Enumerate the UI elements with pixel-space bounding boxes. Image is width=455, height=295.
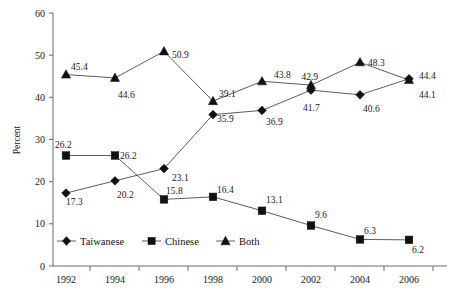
- data-point-chinese-2000: [258, 207, 266, 215]
- data-point-both-1996: [159, 46, 168, 54]
- data-point-both-2000: [257, 76, 266, 84]
- legend-label-both: Both: [239, 236, 260, 247]
- value-label-chinese-1996: 15.8: [166, 186, 183, 196]
- data-point-taiwanese-1994: [111, 176, 120, 185]
- y-axis-ticks: [49, 13, 53, 266]
- value-label-both-1996: 50.9: [172, 50, 189, 60]
- x-tick-label-2006: 2006: [399, 274, 419, 285]
- y-tick-label-10: 10: [35, 218, 45, 229]
- x-axis-ticks: [90, 266, 433, 271]
- value-label-taiwanese-2004: 40.6: [363, 104, 380, 114]
- value-label-chinese-1992: 26.2: [55, 140, 72, 150]
- data-point-chinese-2004: [356, 236, 364, 244]
- series-markers-chinese: [62, 152, 413, 244]
- triangle-marker-icon: [221, 236, 230, 245]
- x-tick-label-1998: 1998: [203, 274, 223, 285]
- diamond-marker-icon: [62, 237, 70, 246]
- x-tick-label-2000: 2000: [252, 274, 272, 285]
- data-point-chinese-1996: [160, 196, 168, 204]
- value-label-chinese-2004: 6.3: [364, 226, 376, 236]
- legend-label-chinese: Chinese: [165, 236, 199, 247]
- y-tick-label-60: 60: [35, 8, 45, 19]
- value-label-both-1994: 44.6: [118, 90, 135, 100]
- data-point-chinese-2006: [405, 236, 413, 244]
- value-label-both-1992: 45.4: [71, 62, 88, 72]
- x-tick-label-2004: 2004: [350, 274, 370, 285]
- square-marker-icon: [148, 237, 155, 244]
- data-point-both-1992: [61, 70, 70, 78]
- value-label-chinese-1998: 16.4: [217, 185, 234, 195]
- value-label-chinese-2000: 13.1: [266, 195, 283, 205]
- value-label-chinese-1994: 26.2: [120, 151, 137, 161]
- data-point-chinese-1992: [62, 152, 70, 160]
- legend-item-chinese[interactable]: Chinese: [142, 236, 199, 247]
- x-tick-label-1996: 1996: [154, 274, 174, 285]
- y-tick-label-40: 40: [35, 92, 45, 103]
- value-label-taiwanese-2000: 36.9: [266, 117, 283, 127]
- value-label-chinese-2006: 6.2: [412, 245, 424, 255]
- y-tick-label-0: 0: [40, 261, 45, 272]
- value-label-both-2000: 43.8: [274, 70, 291, 80]
- legend-label-taiwanese: Taiwanese: [80, 236, 124, 247]
- data-point-chinese-1998: [209, 193, 217, 201]
- value-label-both-2002: 42.9: [301, 72, 318, 82]
- series-markers-taiwanese: [62, 74, 414, 197]
- value-label-chinese-2002: 9.6: [315, 210, 327, 220]
- value-label-both-2006: 44.1: [419, 90, 436, 100]
- data-point-taiwanese-2000: [258, 106, 267, 115]
- value-label-both-2004: 48.3: [368, 58, 385, 68]
- x-tick-label-2002: 2002: [301, 274, 321, 285]
- value-label-taiwanese-2002: 41.7: [303, 103, 320, 113]
- value-label-taiwanese-1994: 20.2: [117, 190, 134, 200]
- value-label-taiwanese-1996: 23.1: [172, 173, 189, 183]
- x-tick-label-1994: 1994: [105, 274, 125, 285]
- y-tick-label-50: 50: [35, 50, 45, 61]
- data-point-chinese-2002: [307, 222, 315, 230]
- value-label-both-1998: 39.1: [219, 89, 236, 99]
- data-point-chinese-1994: [111, 152, 119, 160]
- value-label-taiwanese-1992: 17.3: [66, 197, 83, 207]
- value-label-taiwanese-2006: 44.4: [419, 71, 436, 81]
- data-point-taiwanese-2004: [356, 90, 365, 99]
- x-tick-label-1992: 1992: [56, 274, 76, 285]
- legend-item-both[interactable]: Both: [216, 236, 260, 247]
- line-chart: 60 50 40 30 20 10 0 Percent 1992 1994 19…: [0, 0, 455, 295]
- value-label-taiwanese-1998: 35.9: [217, 114, 234, 124]
- y-axis-title: Percent: [12, 125, 22, 154]
- chart-canvas: 60 50 40 30 20 10 0 Percent 1992 1994 19…: [0, 0, 455, 295]
- data-point-both-2004: [355, 57, 364, 65]
- y-tick-label-30: 30: [35, 134, 45, 145]
- y-tick-label-20: 20: [35, 176, 45, 187]
- legend-item-taiwanese[interactable]: Taiwanese: [57, 236, 124, 247]
- chart-legend: Taiwanese Chinese Both: [57, 236, 260, 247]
